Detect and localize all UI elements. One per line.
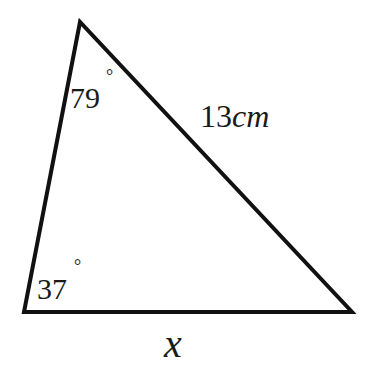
bottom-left-angle-label: 37	[37, 272, 67, 305]
side-length-number: 13	[200, 98, 232, 134]
side-length-unit: cm	[232, 98, 269, 134]
top-angle-degree: °	[106, 66, 113, 86]
top-angle-label: 79	[70, 81, 100, 114]
triangle-diagram: 79 ° 37 ° 13cm x	[0, 0, 373, 376]
side-length-label: 13cm	[200, 98, 269, 134]
bottom-side-label: x	[163, 321, 182, 366]
bottom-left-angle-degree: °	[74, 256, 81, 276]
